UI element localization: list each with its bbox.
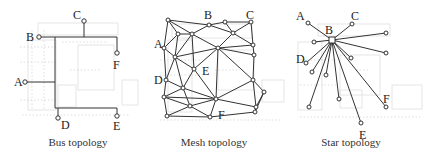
star-label-a: A xyxy=(296,9,305,23)
star-nodes xyxy=(304,21,388,125)
mesh-label-d: D xyxy=(154,73,163,87)
bus-label-e: E xyxy=(113,119,120,133)
star-label-f: F xyxy=(383,92,390,106)
bus-node-c xyxy=(82,19,86,23)
star-caption: Star topology xyxy=(281,136,421,148)
star-label-b: B xyxy=(325,23,333,37)
mesh-label-c: C xyxy=(246,8,254,22)
star-hub-b xyxy=(329,37,335,43)
bus-caption: Bus topology xyxy=(8,136,148,148)
star-node-a xyxy=(306,21,310,25)
mesh-node-e xyxy=(192,67,196,71)
bus-node-f xyxy=(115,51,119,55)
bus-label-f: F xyxy=(113,58,120,72)
star-node-e xyxy=(359,121,363,125)
star-label-d: D xyxy=(296,52,305,66)
bus-node-e xyxy=(115,114,119,118)
mesh-label-f: F xyxy=(218,108,225,122)
bus-nodes xyxy=(23,19,119,120)
mesh-label-a: A xyxy=(154,37,163,51)
bus-label-d: D xyxy=(61,118,70,132)
star-floorplan-background xyxy=(298,24,422,117)
bus-node-b xyxy=(37,35,41,39)
star-label-c: C xyxy=(351,9,359,23)
star-labels: A B C D E F xyxy=(296,9,390,142)
mesh-label-e: E xyxy=(202,64,209,78)
bus-label-c: C xyxy=(73,8,81,22)
mesh-caption: Mesh topology xyxy=(144,136,284,148)
bus-label-b: B xyxy=(26,30,34,44)
mesh-node-d xyxy=(164,78,168,82)
bus-label-a: A xyxy=(14,75,23,89)
mesh-label-b: B xyxy=(204,8,212,22)
bus-labels: A B C D E F xyxy=(14,8,120,133)
bus-node-a xyxy=(23,80,27,84)
mesh-node-f xyxy=(214,97,218,101)
mesh-labels: A B C D E F xyxy=(154,8,254,122)
bus-node-d xyxy=(56,116,60,120)
